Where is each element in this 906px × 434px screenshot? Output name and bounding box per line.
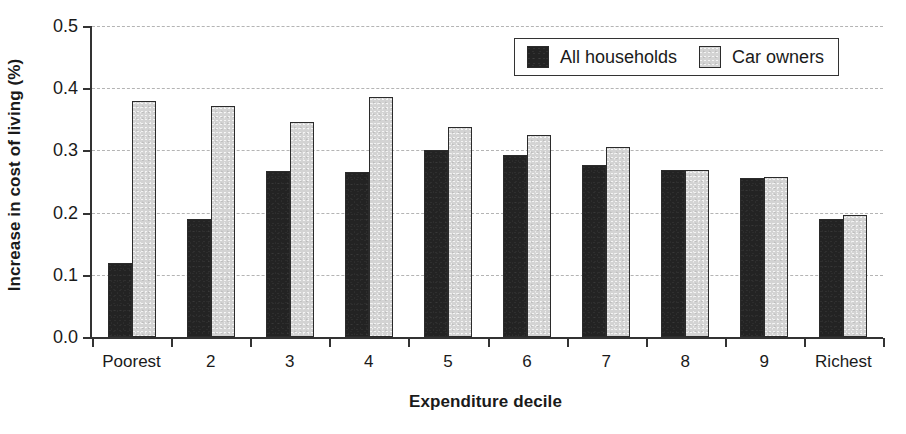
light-swatch-icon <box>699 46 721 68</box>
legend-entry-car-owners: Car owners <box>699 46 824 68</box>
bar <box>211 106 235 337</box>
x-tick-mark <box>725 338 727 347</box>
bar <box>345 172 369 337</box>
bar <box>108 263 132 337</box>
bar <box>685 170 709 337</box>
bar <box>132 101 156 337</box>
x-tick-mark <box>171 338 173 347</box>
x-tick-mark <box>567 338 569 347</box>
bar <box>843 215 867 337</box>
x-tick-label: 7 <box>601 352 610 372</box>
bar <box>369 97 393 337</box>
bar-chart-figure: Increase in cost of living (%) 0.00.10.2… <box>0 0 906 434</box>
y-tick-label: 0.2 <box>32 202 78 223</box>
x-tick-label: 2 <box>206 352 215 372</box>
chart-legend: All households Car owners <box>514 38 839 76</box>
bar <box>582 165 606 337</box>
x-tick-label: 5 <box>443 352 452 372</box>
bar <box>606 147 630 337</box>
x-axis-line <box>90 337 883 339</box>
x-tick-mark <box>883 338 885 347</box>
x-tick-mark <box>250 338 252 347</box>
bar <box>448 127 472 337</box>
bar <box>424 150 448 337</box>
bar <box>764 177 788 337</box>
dark-swatch-icon <box>527 46 549 68</box>
bar <box>740 178 764 337</box>
x-tick-label: 6 <box>522 352 531 372</box>
bar <box>503 155 527 337</box>
y-tick-label: 0.1 <box>32 264 78 285</box>
x-tick-label: Poorest <box>102 352 161 372</box>
bar <box>290 122 314 337</box>
bar <box>661 170 685 337</box>
legend-entry-all-households: All households <box>527 46 677 68</box>
gridline <box>92 88 883 89</box>
legend-label-all-households: All households <box>560 47 677 68</box>
x-tick-mark <box>646 338 648 347</box>
x-tick-label: 8 <box>681 352 690 372</box>
x-tick-mark <box>804 338 806 347</box>
bar <box>266 171 290 337</box>
x-tick-label: 4 <box>364 352 373 372</box>
bar <box>819 219 843 337</box>
y-tick-label: 0.5 <box>32 16 78 37</box>
x-tick-label: 9 <box>760 352 769 372</box>
bar <box>187 219 211 337</box>
x-tick-mark <box>329 338 331 347</box>
gridline <box>92 26 883 27</box>
x-tick-mark <box>408 338 410 347</box>
x-tick-label: 3 <box>285 352 294 372</box>
x-tick-mark <box>488 338 490 347</box>
y-tick-label: 0.4 <box>32 78 78 99</box>
y-tick-label: 0.0 <box>32 327 78 348</box>
bar <box>527 135 551 337</box>
x-tick-mark <box>92 338 94 347</box>
x-axis-title: Expenditure decile <box>88 392 883 412</box>
y-axis-title: Increase in cost of living (%) <box>0 5 30 345</box>
x-tick-label: Richest <box>815 352 872 372</box>
y-tick-label: 0.3 <box>32 140 78 161</box>
legend-label-car-owners: Car owners <box>732 47 824 68</box>
